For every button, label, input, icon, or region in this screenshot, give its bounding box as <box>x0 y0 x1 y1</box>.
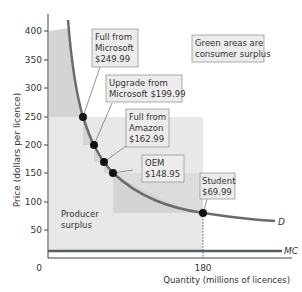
y-ticks <box>44 31 48 230</box>
svg-text:Green areas are: Green areas are <box>195 38 263 48</box>
svg-text:Microsoft: Microsoft <box>95 43 134 53</box>
producer-surplus-label-line2: surplus <box>61 220 92 230</box>
label-student: Student $69.99 <box>200 173 236 199</box>
svg-text:400: 400 <box>25 26 42 36</box>
y-axis-label: Price (dollars per licence) <box>12 93 22 207</box>
point-upgrade-microsoft <box>90 141 98 149</box>
consumer-surplus-note: Green areas are consumer surplus <box>192 35 271 62</box>
x-tick-0: 0 <box>36 263 42 273</box>
svg-text:Amazon: Amazon <box>129 123 163 133</box>
svg-text:150: 150 <box>25 168 42 178</box>
demand-label: D <box>278 217 285 227</box>
point-oem <box>109 169 117 177</box>
svg-text:$148.95: $148.95 <box>145 169 180 179</box>
svg-text:consumer surplus: consumer surplus <box>195 49 271 59</box>
label-oem: OEM $148.95 <box>142 155 184 182</box>
producer-surplus-label-line1: Producer <box>61 209 99 219</box>
svg-text:$249.99: $249.99 <box>95 54 130 64</box>
price-discrimination-chart: 400 350 300 250 200 150 100 50 0 180 Pri… <box>0 0 302 292</box>
svg-text:OEM: OEM <box>145 158 164 168</box>
point-student <box>199 209 207 217</box>
label-full-amazon: Full from Amazon $162.99 <box>126 109 169 147</box>
y-tick-labels: 400 350 300 250 200 150 100 50 <box>25 26 42 235</box>
label-full-microsoft: Full from Microsoft $249.99 <box>92 29 138 67</box>
point-full-microsoft <box>79 113 87 121</box>
svg-text:Student: Student <box>202 176 236 186</box>
svg-text:100: 100 <box>25 197 42 207</box>
svg-text:50: 50 <box>31 225 43 235</box>
svg-text:350: 350 <box>25 55 42 65</box>
svg-text:$162.99: $162.99 <box>129 134 164 144</box>
svg-text:$69.99: $69.99 <box>202 187 232 197</box>
x-axis-label: Quantity (millions of licences) <box>163 275 290 285</box>
label-upgrade-microsoft: Upgrade from Microsoft $199.99 <box>106 75 186 102</box>
svg-text:300: 300 <box>25 83 42 93</box>
svg-text:Full from: Full from <box>95 32 132 42</box>
point-full-amazon <box>100 158 108 166</box>
svg-text:250: 250 <box>25 112 42 122</box>
svg-text:Full from: Full from <box>129 112 166 122</box>
svg-text:200: 200 <box>25 140 42 150</box>
x-tick-180: 180 <box>194 263 211 273</box>
mc-label: MC <box>284 246 299 256</box>
svg-text:Upgrade from: Upgrade from <box>109 78 168 88</box>
svg-text:Microsoft $199.99: Microsoft $199.99 <box>109 89 186 99</box>
